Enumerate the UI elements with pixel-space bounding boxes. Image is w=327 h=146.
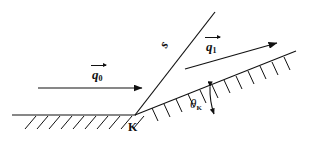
overarrow-icon (205, 37, 220, 38)
scattered-vector-label: q1 (206, 38, 217, 55)
incident-vector-subscript: 0 (99, 74, 103, 83)
overarrow-icon (91, 65, 106, 66)
figure-canvas: q0 q1 s θK K (0, 0, 327, 146)
scattered-vector-subscript: 1 (213, 46, 217, 55)
angle-subscript: K (196, 104, 201, 112)
horizontal-surface-hatching (25, 116, 144, 129)
vertex-label: K (128, 121, 137, 133)
angle-arc (210, 87, 214, 114)
incident-vector-label: q0 (92, 66, 103, 83)
angle-label: θK (190, 97, 202, 112)
scattered-vector-glyph: q1 (206, 38, 217, 55)
scattered-wave-arrow (185, 43, 277, 69)
incident-vector-glyph: q0 (92, 66, 103, 83)
wedge-diffraction-diagram (0, 0, 327, 146)
